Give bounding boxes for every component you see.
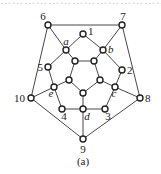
edge-9-10 xyxy=(31,98,83,139)
vertex-label-e: e xyxy=(49,87,54,99)
vertex-6 xyxy=(45,22,51,28)
edge-8-9 xyxy=(83,98,140,139)
vertex-label-2: 2 xyxy=(127,64,133,76)
figure-caption: (a) xyxy=(77,155,90,168)
vertex-label-7: 7 xyxy=(120,10,126,22)
vertex-9 xyxy=(80,136,86,142)
vertex-label-c: c xyxy=(112,87,117,99)
vertex-label-d: d xyxy=(84,110,90,122)
edge-8-c xyxy=(115,87,140,98)
vertex-label-8: 8 xyxy=(145,92,151,104)
vertex-label-b: b xyxy=(108,43,114,55)
vertex-b xyxy=(100,47,106,53)
vertex-p3 xyxy=(97,77,103,83)
vertex-p1 xyxy=(72,58,78,64)
vertex-7 xyxy=(119,22,125,28)
vertex-1 xyxy=(80,31,86,37)
vertex-label-6: 6 xyxy=(40,10,46,22)
vertex-label-1: 1 xyxy=(88,25,94,37)
dodecahedron-graph: 671ab52ec1084d39 (a) xyxy=(0,0,161,174)
vertex-p4 xyxy=(80,90,86,96)
vertex-label-3: 3 xyxy=(105,110,111,122)
vertex-5 xyxy=(45,64,51,70)
vertex-10 xyxy=(28,95,34,101)
vertex-label-10: 10 xyxy=(14,92,26,104)
vertex-a xyxy=(63,47,69,53)
edge-5-a xyxy=(48,50,66,67)
vertex-2 xyxy=(119,67,125,73)
vertex-label-a: a xyxy=(63,35,69,47)
vertex-label-9: 9 xyxy=(80,143,86,155)
vertex-8 xyxy=(137,95,143,101)
vertex-label-4: 4 xyxy=(61,110,67,122)
vertex-p5 xyxy=(66,77,72,83)
edge-7-8 xyxy=(122,25,140,98)
vertex-p2 xyxy=(91,58,97,64)
vertex-label-5: 5 xyxy=(38,61,44,73)
